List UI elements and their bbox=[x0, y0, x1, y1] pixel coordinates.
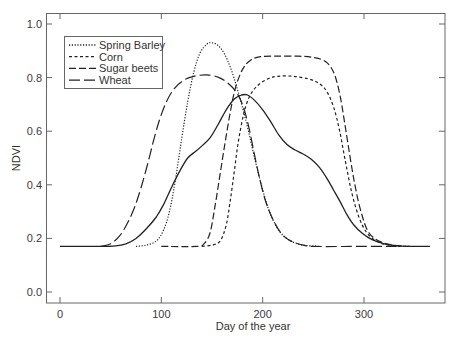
x-tick-label: 100 bbox=[152, 308, 170, 320]
legend-label: Wheat bbox=[99, 74, 131, 86]
y-tick-label: 1.0 bbox=[27, 18, 42, 30]
legend-label: Sugar beets bbox=[99, 62, 159, 74]
y-tick-label: 0.2 bbox=[27, 232, 42, 244]
x-tick-label: 0 bbox=[57, 308, 63, 320]
x-tick-label: 200 bbox=[253, 308, 271, 320]
y-tick-label: 0.6 bbox=[27, 125, 42, 137]
y-tick-label: 0.0 bbox=[27, 286, 42, 298]
series-corn-line bbox=[202, 76, 410, 247]
x-tick-label: 300 bbox=[355, 308, 373, 320]
y-axis-label: NDVI bbox=[10, 145, 22, 171]
series-spring-barley-line bbox=[136, 43, 318, 247]
series-sugar-beets-line bbox=[161, 56, 409, 247]
legend-label: Spring Barley bbox=[99, 39, 166, 51]
x-axis-label: Day of the year bbox=[216, 320, 291, 332]
y-tick-label: 0.8 bbox=[27, 72, 42, 84]
legend: Spring BarleyCornSugar beetsWheat bbox=[65, 37, 166, 89]
ndvi-line-chart: 0100200300 0.00.20.40.60.81.0 Spring Bar… bbox=[0, 0, 459, 342]
y-tick-label: 0.4 bbox=[27, 179, 42, 191]
legend-label: Corn bbox=[99, 51, 123, 63]
series-wheat-line bbox=[101, 75, 400, 247]
